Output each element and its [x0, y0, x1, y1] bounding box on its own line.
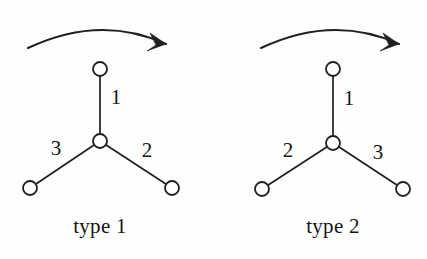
leaf-node-3 [396, 182, 410, 196]
diagram-type-2: 1 2 3 type 2 [255, 30, 410, 238]
rotation-arc-icon [261, 30, 399, 48]
edge-line-2 [100, 141, 172, 188]
caption-type-2: type 2 [306, 214, 360, 238]
edge-label-3: 3 [51, 136, 62, 160]
arrowhead-icon [147, 33, 166, 51]
diagram-svg: 1 2 3 type 1 1 2 3 type 2 [0, 0, 427, 259]
center-node [326, 136, 340, 150]
edge-line-3 [30, 141, 100, 188]
arrowhead-icon [380, 33, 399, 51]
clockwise-rotation-arrow [28, 30, 166, 51]
rotation-arc-icon [28, 30, 166, 48]
leaf-node-1 [93, 62, 107, 76]
edge-label-1: 1 [344, 86, 355, 110]
leaf-node-3 [23, 181, 37, 195]
clockwise-rotation-arrow [261, 30, 399, 51]
figure-canvas: 1 2 3 type 1 1 2 3 type 2 [0, 0, 427, 259]
caption-type-1: type 1 [73, 214, 127, 238]
edge-line-3 [333, 143, 403, 189]
center-node [93, 134, 107, 148]
leaf-node-2 [255, 182, 269, 196]
leaf-node-2 [165, 181, 179, 195]
edge-label-2: 2 [142, 138, 153, 162]
edge-label-1: 1 [111, 85, 122, 109]
edge-label-2: 2 [283, 138, 294, 162]
diagram-type-1: 1 2 3 type 1 [23, 30, 179, 238]
edge-line-2 [262, 143, 333, 189]
edge-label-3: 3 [373, 140, 384, 164]
leaf-node-1 [326, 62, 340, 76]
